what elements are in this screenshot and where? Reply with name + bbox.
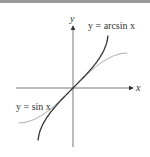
sin-label: y = sin x [16, 102, 51, 112]
y-axis-label: y [70, 14, 74, 24]
x-axis-label: x [136, 83, 140, 93]
arcsin-label: y = arcsin x [88, 21, 135, 31]
figure: y x y = arcsin x y = sin x [0, 0, 150, 157]
